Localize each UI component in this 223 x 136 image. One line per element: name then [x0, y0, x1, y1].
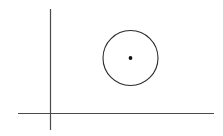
canvas-background [0, 0, 223, 136]
circle-center-point [129, 56, 133, 60]
diagram-canvas [0, 0, 223, 136]
geometry-diagram [0, 0, 223, 136]
